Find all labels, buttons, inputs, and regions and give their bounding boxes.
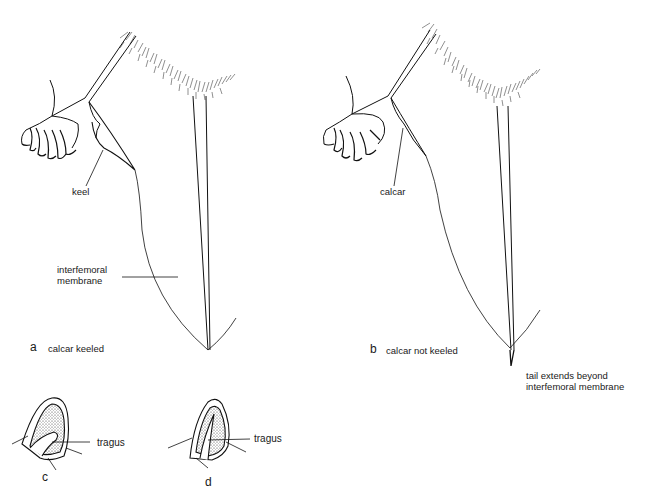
leg-a: [52, 32, 136, 124]
keel-label: keel: [72, 186, 89, 197]
panel-b-letter: b: [370, 342, 377, 356]
tail-tip-b: [510, 350, 514, 366]
panel-b-caption: calcar not keeled: [386, 345, 458, 356]
tail-note-label: tail extends beyond interfemoral membran…: [526, 370, 624, 392]
panel-a-drawing: [22, 32, 237, 350]
calcar-b: [391, 98, 426, 156]
foot-a: [22, 116, 79, 148]
claws-a: [22, 128, 76, 159]
leg-b: [352, 30, 436, 124]
fur-a: [120, 32, 235, 100]
ear-c-drawing: [12, 398, 90, 470]
tail-a: [193, 96, 210, 350]
membrane-label: interfemoral membrane: [57, 264, 107, 286]
foot-b: [323, 114, 384, 144]
tail-b: [497, 106, 514, 350]
fur-b: [422, 23, 540, 106]
keel-pointer: [86, 150, 103, 186]
claws-b: [324, 128, 380, 161]
panel-c-letter: c: [42, 470, 48, 484]
panel-d-letter: d: [205, 475, 212, 489]
tragus-d-label: tragus: [254, 433, 282, 444]
calcar-pointer: [394, 128, 403, 186]
illustration-canvas: [0, 0, 646, 495]
membrane-a: [135, 170, 236, 350]
calcar-label: calcar: [380, 186, 405, 197]
tragus-c-label: tragus: [97, 437, 125, 448]
ear-d-drawing: [168, 399, 250, 468]
panel-b-drawing: [323, 23, 540, 366]
panel-a-letter: a: [30, 340, 37, 354]
membrane-b: [426, 156, 540, 348]
panel-a-caption: calcar keeled: [48, 343, 104, 354]
